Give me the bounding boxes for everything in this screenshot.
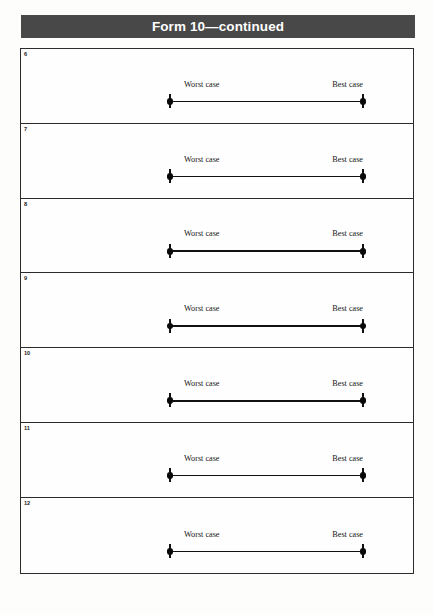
scale-track[interactable]: [170, 325, 363, 327]
scale-labels: Worst case Best case: [170, 379, 363, 393]
row-number: 8: [24, 200, 27, 208]
scale-track[interactable]: [170, 101, 363, 103]
endpoint-dot-icon: [167, 397, 174, 404]
rating-scale[interactable]: Worst case Best case: [170, 454, 363, 484]
worst-case-label: Worst case: [184, 454, 220, 463]
rating-scale[interactable]: Worst case Best case: [170, 80, 363, 110]
scale-labels: Worst case Best case: [170, 229, 363, 243]
scale-labels: Worst case Best case: [170, 530, 363, 544]
table-row: 10 Worst case Best case: [21, 348, 413, 423]
best-case-label: Best case: [332, 80, 363, 89]
best-case-label: Best case: [332, 454, 363, 463]
rating-scale[interactable]: Worst case Best case: [170, 530, 363, 560]
table-row: 11 Worst case Best case: [21, 423, 413, 498]
page-title: Form 10—continued: [152, 19, 284, 34]
worst-case-label: Worst case: [184, 304, 220, 313]
rating-scale[interactable]: Worst case Best case: [170, 304, 363, 334]
best-case-label: Best case: [332, 155, 363, 164]
best-case-label: Best case: [332, 530, 363, 539]
endpoint-dot-icon: [167, 323, 174, 330]
worst-case-label: Worst case: [184, 155, 220, 164]
form-header-bar: Form 10—continued: [21, 15, 415, 38]
scale-track[interactable]: [170, 400, 363, 402]
table-row: 7 Worst case Best case: [21, 124, 413, 199]
scale-track[interactable]: [170, 250, 363, 252]
rating-scale[interactable]: Worst case Best case: [170, 379, 363, 409]
endpoint-dot-icon: [360, 98, 367, 105]
endpoint-dot-icon: [360, 397, 367, 404]
rating-scale-table: 6 Worst case Best case 7: [20, 48, 414, 574]
table-row: 8 Worst case Best case: [21, 199, 413, 274]
worst-case-label: Worst case: [184, 80, 220, 89]
scale-labels: Worst case Best case: [170, 155, 363, 169]
endpoint-dot-icon: [167, 248, 174, 255]
endpoint-dot-icon: [360, 548, 367, 555]
scale-track[interactable]: [170, 551, 363, 553]
row-number: 7: [24, 125, 27, 133]
rating-scale[interactable]: Worst case Best case: [170, 155, 363, 185]
best-case-label: Best case: [332, 379, 363, 388]
worst-case-label: Worst case: [184, 229, 220, 238]
worst-case-label: Worst case: [184, 379, 220, 388]
best-case-label: Best case: [332, 229, 363, 238]
endpoint-dot-icon: [360, 173, 367, 180]
scale-labels: Worst case Best case: [170, 80, 363, 94]
worst-case-label: Worst case: [184, 530, 220, 539]
scale-track[interactable]: [170, 176, 363, 178]
endpoint-dot-icon: [360, 472, 367, 479]
row-number: 9: [24, 274, 27, 282]
endpoint-dot-icon: [167, 472, 174, 479]
row-number: 6: [24, 50, 27, 58]
endpoint-dot-icon: [360, 248, 367, 255]
endpoint-dot-icon: [167, 173, 174, 180]
endpoint-dot-icon: [167, 98, 174, 105]
endpoint-dot-icon: [167, 548, 174, 555]
table-row: 6 Worst case Best case: [21, 49, 413, 124]
row-number: 11: [24, 424, 30, 432]
table-row: 9 Worst case Best case: [21, 273, 413, 348]
scale-labels: Worst case Best case: [170, 304, 363, 318]
best-case-label: Best case: [332, 304, 363, 313]
scale-track[interactable]: [170, 475, 363, 477]
scale-labels: Worst case Best case: [170, 454, 363, 468]
row-number: 10: [24, 349, 30, 357]
rating-scale[interactable]: Worst case Best case: [170, 229, 363, 259]
table-row: 12 Worst case Best case: [21, 498, 413, 573]
endpoint-dot-icon: [360, 323, 367, 330]
form-page: Form 10—continued 6 Worst case Best case: [0, 0, 434, 615]
row-number: 12: [24, 499, 30, 507]
